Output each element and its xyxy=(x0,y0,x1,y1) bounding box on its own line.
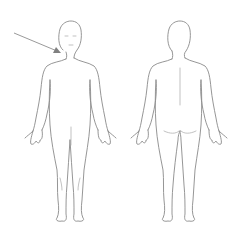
back-hand-right xyxy=(209,130,227,144)
annotation-arrow xyxy=(14,33,61,53)
back-leg-left xyxy=(155,80,180,221)
back-head xyxy=(168,21,191,58)
back-leg-right xyxy=(180,80,202,221)
front-head xyxy=(59,21,82,58)
front-leg-right xyxy=(70,80,91,221)
front-hand-right xyxy=(98,130,116,144)
back-figure xyxy=(131,21,227,221)
front-hand-left xyxy=(25,130,42,144)
back-hand-left xyxy=(131,130,148,144)
body-diagram xyxy=(0,0,244,233)
front-leg-left xyxy=(49,80,70,221)
front-figure xyxy=(25,21,116,221)
